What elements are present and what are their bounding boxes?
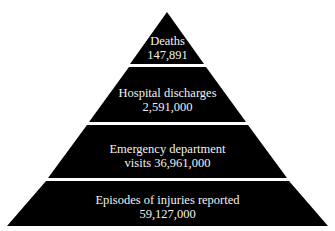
level-1-value: 147,891 (0, 48, 335, 62)
level-4-value: 59,127,000 (0, 207, 335, 221)
level-2-title: Hospital discharges (0, 86, 335, 100)
level-3-line1: Emergency department (0, 142, 335, 156)
level-2-value: 2,591,000 (0, 100, 335, 114)
level-1-title: Deaths (0, 34, 335, 48)
level-3-line2: visits 36,961,000 (0, 156, 335, 170)
level-4-title: Episodes of injuries reported (0, 193, 335, 207)
